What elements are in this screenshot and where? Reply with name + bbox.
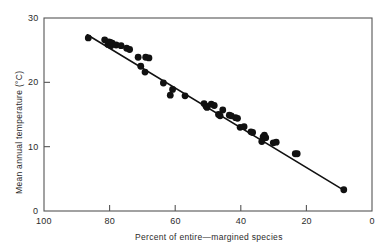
data-point [258, 138, 265, 145]
data-point [273, 139, 280, 146]
y-tick-label: 20 [28, 77, 38, 87]
x-tick-label: 40 [236, 216, 246, 226]
data-point [217, 112, 224, 119]
x-tick-label: 60 [170, 216, 180, 226]
plot-frame [44, 18, 372, 211]
data-point [167, 92, 174, 99]
y-tick-label: 0 [33, 206, 38, 216]
data-point [241, 123, 248, 130]
y-axis-title: Mean annual temperature (°C) [14, 71, 24, 194]
data-point [135, 54, 142, 61]
data-point [234, 115, 241, 122]
data-point [211, 102, 218, 109]
x-axis-title: Percent of entire—margined species [135, 232, 283, 242]
x-tick-label: 20 [301, 216, 311, 226]
y-tick-label: 30 [28, 13, 38, 23]
data-point [340, 186, 347, 193]
data-point [249, 129, 256, 136]
y-tick-label: 10 [28, 142, 38, 152]
chart-figure: 100806040200 0102030 Percent of entire—m… [0, 0, 384, 251]
data-point [294, 150, 301, 157]
data-points [85, 35, 347, 194]
y-axis-ticks [44, 82, 50, 146]
data-point [85, 35, 92, 42]
data-point [126, 46, 133, 53]
x-tick-label: 100 [36, 216, 52, 226]
data-point [146, 54, 153, 61]
data-point [169, 86, 176, 93]
x-tick-label: 80 [105, 216, 115, 226]
data-point [137, 63, 144, 70]
data-point [219, 107, 226, 114]
x-tick-label: 0 [370, 216, 375, 226]
data-point [182, 92, 189, 99]
data-point [142, 69, 149, 76]
x-axis-ticks [110, 205, 307, 211]
scatter-plot-canvas [0, 0, 384, 251]
data-point [160, 80, 167, 87]
